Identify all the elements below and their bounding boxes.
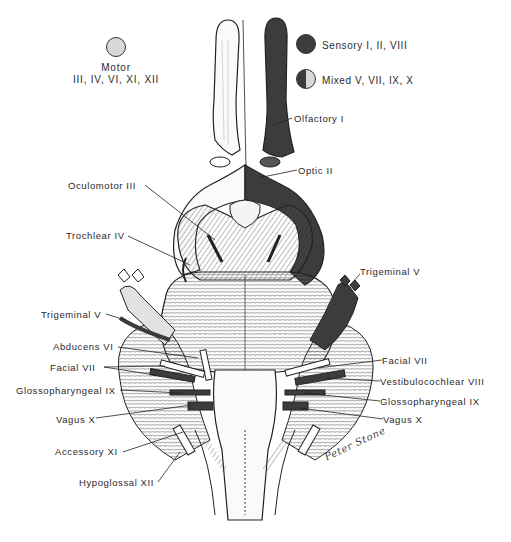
motor-legend-swatch — [106, 37, 126, 57]
sensory-legend-label: Sensory I, II, VIII — [322, 40, 407, 51]
label-vagus-left: Vagus X — [56, 414, 95, 425]
label-olfactory: Olfactory I — [294, 113, 344, 124]
label-hypoglossal: Hypoglossal XII — [79, 477, 154, 488]
label-optic: Optic II — [298, 165, 333, 176]
motor-legend-nerves: III, IV, VI, XI, XII — [56, 74, 176, 85]
olfactory-tract-left — [213, 20, 240, 155]
label-abducens: Abducens VI — [53, 341, 113, 352]
olfactory-tract-right[interactable] — [263, 18, 294, 157]
sensory-legend-swatch — [296, 34, 316, 54]
label-vestibulocochlear: Vestibulocochlear VIII — [380, 376, 485, 387]
label-facial-left: Facial VII — [50, 362, 96, 373]
label-glossopharyngeal-right: Glossopharyngeal IX — [380, 396, 480, 407]
midbrain — [178, 200, 313, 280]
label-vagus-right: Vagus X — [383, 414, 422, 425]
mixed-legend-label: Mixed V, VII, IX, X — [322, 75, 414, 86]
label-glossopharyngeal-left: Glossopharyngeal IX — [16, 385, 116, 396]
label-facial-right: Facial VII — [382, 355, 428, 366]
label-trigeminal-right: Trigeminal V — [360, 266, 420, 277]
label-oculomotor: Oculomotor III — [68, 180, 136, 191]
label-trochlear: Trochlear IV — [66, 230, 125, 241]
motor-legend-title: Motor — [80, 62, 152, 73]
label-trigeminal-left: Trigeminal V — [41, 309, 101, 320]
label-accessory: Accessory XI — [55, 446, 118, 457]
cranial-nerves-diagram: Motor III, IV, VI, XI, XII Sensory I, II… — [0, 0, 511, 542]
mixed-legend-swatch — [296, 69, 316, 89]
